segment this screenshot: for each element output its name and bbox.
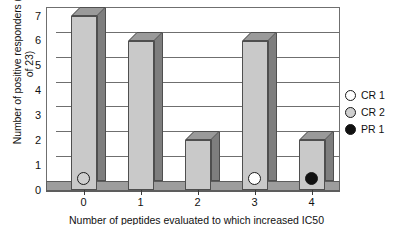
- y-tick-label: 2: [27, 135, 41, 146]
- bar-face: [242, 41, 268, 190]
- y-tick-label: 5: [27, 60, 41, 71]
- x-tick-label: 1: [129, 196, 153, 208]
- responder-marker: [305, 172, 318, 185]
- legend-item: CR 2: [345, 105, 393, 119]
- bar: [185, 131, 211, 190]
- y-tick-label: 1: [27, 160, 41, 171]
- y-tick-label: 6: [27, 35, 41, 46]
- y-tick-label: 4: [27, 85, 41, 96]
- bar-side: [154, 32, 163, 181]
- y-tick-label: 0: [27, 185, 41, 196]
- x-tick: [84, 190, 85, 195]
- plot-floor-front: [46, 190, 340, 192]
- legend-item: PR 1: [345, 122, 393, 136]
- bar-face: [128, 41, 154, 190]
- bar-face: [71, 16, 97, 190]
- y-axis-title: Number of positive responders (out of 23…: [11, 0, 35, 149]
- x-tick: [141, 190, 142, 195]
- bar: [128, 32, 154, 190]
- x-tick-label: 3: [243, 196, 267, 208]
- x-tick: [255, 190, 256, 195]
- bar-chart: Number of positive responders (out of 23…: [0, 0, 393, 225]
- legend-swatch-circle-icon: [345, 107, 356, 118]
- bar: [242, 32, 268, 190]
- responder-marker: [77, 172, 90, 185]
- x-tick-label: 2: [186, 196, 210, 208]
- y-tick-label: 3: [27, 110, 41, 121]
- y-tick-label: 7: [27, 11, 41, 22]
- side-wall-segment: [46, 7, 56, 41]
- x-axis-title: Number of peptides evaluated to which in…: [0, 214, 393, 225]
- legend-label: CR 2: [361, 106, 385, 118]
- bar-face: [185, 140, 211, 190]
- chart-legend: CR 1CR 2PR 1: [345, 88, 393, 139]
- legend-label: PR 1: [361, 123, 384, 135]
- legend-swatch-circle-icon: [345, 90, 356, 101]
- bar-side: [268, 32, 277, 181]
- legend-item: CR 1: [345, 88, 393, 102]
- x-tick-label: 4: [300, 196, 324, 208]
- x-tick: [312, 190, 313, 195]
- x-tick: [198, 190, 199, 195]
- bar: [71, 7, 97, 190]
- responder-marker: [248, 172, 261, 185]
- legend-swatch-circle-icon: [345, 124, 356, 135]
- bar-side: [97, 7, 106, 181]
- legend-label: CR 1: [361, 89, 385, 101]
- x-tick-label: 0: [72, 196, 96, 208]
